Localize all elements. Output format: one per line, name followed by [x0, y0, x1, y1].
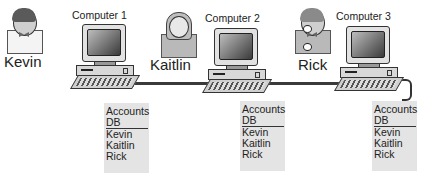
db-entry: Rick: [374, 149, 417, 160]
db-entry: Rick: [242, 149, 285, 160]
accounts-db-table: Accounts DB Kevin Kaitlin Rick: [104, 103, 149, 173]
db-title-2: DB: [242, 115, 285, 126]
user-avatar-kevin: [4, 8, 44, 52]
keyboard-icon: [202, 79, 272, 93]
computer-label: Computer 1: [72, 9, 127, 21]
monitor-icon: [214, 28, 258, 66]
glasses-icon: [303, 19, 321, 25]
user-name: Rick: [298, 56, 327, 73]
accounts-db-table: Accounts DB Kevin Kaitlin Rick: [372, 101, 417, 171]
screen-icon: [219, 33, 253, 60]
computer-icon: [70, 24, 142, 82]
computer-icon: [334, 26, 406, 84]
db-title-2: DB: [374, 115, 417, 126]
head-icon: [169, 16, 189, 38]
user-avatar-kaitlin: [158, 12, 198, 56]
db-title-2: DB: [106, 117, 149, 128]
user-name: Kevin: [4, 53, 42, 70]
keyboard-icon: [334, 77, 404, 91]
computer-label: Computer 2: [205, 12, 260, 24]
user-name: Kaitlin: [150, 56, 191, 73]
computer-icon: [202, 28, 274, 86]
screen-icon: [87, 29, 121, 56]
db-entry: Rick: [106, 151, 149, 162]
user-avatar-rick: [292, 8, 332, 52]
keyboard-icon: [70, 75, 140, 89]
hair-icon: [12, 8, 36, 22]
computer-label: Computer 3: [336, 10, 391, 22]
monitor-icon: [346, 26, 390, 64]
monitor-icon: [82, 24, 126, 62]
screen-icon: [351, 31, 385, 58]
accounts-db-table: Accounts DB Kevin Kaitlin Rick: [240, 101, 285, 171]
